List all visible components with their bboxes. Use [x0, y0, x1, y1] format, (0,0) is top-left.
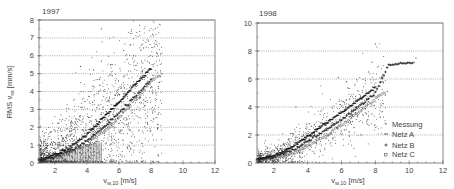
svg-text:0: 0	[30, 159, 34, 168]
legend-item-netz-c: Netz C	[385, 150, 416, 159]
data-points	[38, 20, 163, 163]
svg-text:8: 8	[149, 166, 153, 175]
svg-text:5: 5	[30, 69, 34, 78]
gridlines	[39, 20, 215, 145]
svg-text:Messung: Messung	[392, 120, 422, 129]
svg-text:10: 10	[244, 19, 252, 28]
svg-text:8: 8	[248, 47, 252, 56]
svg-text:6: 6	[339, 166, 343, 175]
svg-text:12: 12	[439, 166, 447, 175]
y-axis-label: RMS vsx [mm/s]	[5, 66, 15, 119]
svg-text:Netz A: Netz A	[392, 130, 414, 139]
svg-text:6: 6	[117, 166, 121, 175]
chart-1997: 1997 01234567824681012 RMS vsx [mm/s] vw…	[5, 7, 219, 186]
axis-ticks: 024681024681012	[244, 19, 448, 176]
svg-text:1: 1	[30, 141, 34, 150]
figure: 1997 01234567824681012 RMS vsx [mm/s] vw…	[0, 0, 454, 189]
svg-text:2: 2	[248, 131, 252, 140]
chart-title-1997: 1997	[42, 7, 60, 16]
svg-text:6: 6	[248, 75, 252, 84]
legend-item-netz-a: Netz A	[384, 130, 414, 139]
svg-text:8: 8	[373, 166, 377, 175]
svg-text:3: 3	[30, 105, 34, 114]
chart-1998: 1998 024681024681012 vw,10 [m/s] Messung…	[244, 9, 448, 186]
plot-frame	[257, 23, 443, 163]
svg-text:4: 4	[85, 166, 89, 175]
svg-text:2: 2	[53, 166, 57, 175]
svg-text:4: 4	[30, 87, 34, 96]
svg-text:RMS vsx [mm/s]: RMS vsx [mm/s]	[5, 66, 15, 119]
svg-text:6: 6	[30, 51, 34, 60]
svg-text:8: 8	[30, 16, 34, 25]
chart-title-1998: 1998	[259, 9, 277, 18]
svg-text:7: 7	[30, 33, 34, 42]
circle-marker-icon	[385, 154, 388, 157]
svg-text:0: 0	[248, 159, 252, 168]
svg-text:Netz C: Netz C	[392, 150, 416, 159]
svg-text:2: 2	[272, 166, 276, 175]
dot-marker-icon	[385, 123, 386, 124]
svg-text:10: 10	[405, 166, 413, 175]
legend-item-messung: Messung	[385, 120, 422, 129]
x-axis-label: vw,10 [m/s]	[331, 176, 364, 186]
svg-text:12: 12	[211, 166, 219, 175]
x-axis-label: vw,10 [m/s]	[103, 176, 136, 186]
plus-marker-icon	[385, 144, 388, 147]
legend-item-netz-b: Netz B	[385, 141, 415, 150]
chart-canvas: 1997 01234567824681012 RMS vsx [mm/s] vw…	[0, 0, 454, 189]
svg-text:2: 2	[30, 123, 34, 132]
svg-text:Netz B: Netz B	[392, 141, 415, 150]
svg-text:4: 4	[248, 103, 252, 112]
svg-text:4: 4	[306, 166, 310, 175]
legend: Messung Netz A Netz B Netz C	[384, 120, 422, 159]
svg-text:10: 10	[179, 166, 187, 175]
